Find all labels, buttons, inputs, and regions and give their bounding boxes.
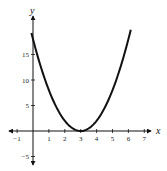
y-tick-label: 15: [22, 51, 30, 59]
parabola-curve: [31, 30, 130, 131]
y-tick-label: 10: [22, 77, 30, 85]
y-tick-label: 5: [26, 102, 30, 110]
x-tick-label: 4: [95, 135, 99, 143]
parabola-chart: −11234567 −551015 x y: [0, 0, 167, 171]
x-tick-label: 2: [63, 135, 67, 143]
x-tick-label: 5: [111, 135, 115, 143]
x-tick-label: 3: [79, 135, 83, 143]
x-tick-label: −1: [13, 135, 21, 143]
x-tick-label: 6: [127, 135, 131, 143]
x-axis-label: x: [155, 125, 161, 136]
y-axis-label: y: [29, 5, 35, 16]
y-tick-label: −5: [22, 153, 30, 161]
x-tick-label: 1: [47, 135, 51, 143]
x-tick-label: 7: [143, 135, 147, 143]
